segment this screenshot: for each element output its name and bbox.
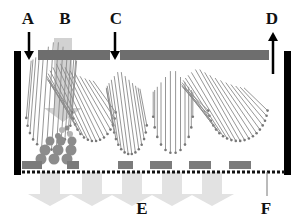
fiber-end-dot: [153, 126, 156, 129]
flow-arrow-shaft-3: [122, 172, 142, 194]
membrane-dot: [87, 171, 90, 174]
fiber-end-dot: [26, 125, 29, 128]
membrane-dot: [72, 171, 75, 174]
fiber-end-dot: [69, 125, 72, 128]
membrane-dot: [112, 171, 115, 174]
fiber-end-dot: [187, 136, 190, 139]
fiber-end-dot: [192, 116, 195, 119]
arrow-d-head: [268, 32, 278, 41]
membrane-dot: [82, 171, 85, 174]
label-b: B: [59, 9, 70, 28]
label-c: C: [110, 9, 122, 28]
fiber-strand: [244, 88, 268, 111]
fiber-end-dot: [222, 135, 225, 138]
fiber-end-dot: [87, 139, 90, 142]
fiber-end-dot: [266, 109, 269, 112]
particle: [68, 137, 77, 146]
membrane-dot: [42, 171, 45, 174]
fiber-end-dot: [29, 132, 32, 135]
membrane-dot: [157, 171, 160, 174]
membrane-dot: [202, 171, 205, 174]
fiber-end-dot: [255, 132, 258, 135]
fiber-end-dot: [264, 120, 267, 123]
flow-arrow-shaft-2: [82, 172, 102, 194]
fiber-end-dot: [169, 152, 172, 155]
fiber-strand: [221, 80, 257, 133]
membrane-dot: [32, 171, 35, 174]
fiber-end-dot: [120, 148, 123, 151]
fiber-end-dot: [226, 137, 229, 140]
fiber-end-dot: [164, 149, 167, 152]
membrane-dot: [57, 171, 60, 174]
pad-6: [229, 161, 251, 169]
fiber-end-dot: [230, 139, 233, 142]
flow-arrow-head-1: [28, 194, 72, 206]
fiber-end-dot: [160, 143, 163, 146]
membrane-dot: [37, 171, 40, 174]
fiber-group-4: [152, 71, 194, 154]
filtration-diagram: A B C D E F: [0, 0, 298, 221]
fiber-end-dot: [184, 143, 187, 146]
fiber-end-dot: [248, 137, 251, 140]
membrane-dot: [212, 171, 215, 174]
membrane-dot: [127, 171, 130, 174]
fiber-end-dot: [50, 148, 53, 151]
fiber-end-dot: [91, 140, 94, 143]
membrane-dot: [147, 171, 150, 174]
arrow-c-head: [110, 51, 120, 60]
fiber-end-dot: [131, 153, 134, 156]
fiber-end-dot: [252, 135, 255, 138]
flow-arrow-shaft-5: [202, 172, 222, 194]
membrane-dot: [107, 171, 110, 174]
membrane-dot: [142, 171, 145, 174]
membrane-dot: [27, 171, 30, 174]
fiber-end-dot: [32, 138, 35, 141]
membrane-dot: [237, 171, 240, 174]
membrane-dot: [47, 171, 50, 174]
fiber-end-dot: [140, 144, 143, 147]
fiber-end-dot: [174, 152, 177, 155]
membrane-dot: [262, 171, 265, 174]
particle: [46, 137, 55, 146]
particle: [49, 154, 60, 165]
fiber-end-dot: [83, 136, 86, 139]
flow-arrow-head-2: [70, 194, 114, 206]
fiber-end-dot: [36, 143, 39, 146]
fiber-end-dot: [143, 138, 146, 141]
fiber-end-dot: [138, 148, 141, 151]
fiber-end-dot: [261, 124, 264, 127]
fiber-end-dot: [156, 136, 159, 139]
label-a: A: [22, 9, 35, 28]
pad-3: [118, 161, 133, 169]
particle: [65, 126, 70, 131]
fiber-end-dot: [123, 151, 126, 154]
membrane-dot: [207, 171, 210, 174]
fiber-end-dot: [190, 126, 193, 129]
membrane-dot: [247, 171, 250, 174]
membrane-dot: [152, 171, 155, 174]
membrane-dot: [77, 171, 80, 174]
membrane-dot: [222, 171, 225, 174]
membrane-dot: [277, 171, 280, 174]
fiber-end-dot: [152, 116, 155, 119]
membrane-dot: [122, 171, 125, 174]
filtrate-flow-arrows: [28, 172, 234, 206]
membrane-dot: [102, 171, 105, 174]
membrane-dot: [177, 171, 180, 174]
membrane-dot: [162, 171, 165, 174]
fiber-strand: [109, 83, 118, 145]
flow-arrow-head-4: [150, 194, 194, 206]
particle: [67, 131, 73, 137]
membrane-dot: [117, 171, 120, 174]
fiber-group-5: [182, 70, 269, 143]
fiber-end-dot: [109, 128, 112, 131]
fiber-end-dot: [99, 139, 102, 142]
pad-5: [189, 161, 211, 169]
membrane-dot: [252, 171, 255, 174]
particle: [57, 137, 66, 146]
flow-arrow-shaft-4: [162, 172, 182, 194]
fiber-end-dot: [146, 124, 149, 127]
particle: [59, 127, 65, 133]
top-bar-2: [120, 50, 269, 60]
fiber-end-dot: [134, 151, 137, 154]
